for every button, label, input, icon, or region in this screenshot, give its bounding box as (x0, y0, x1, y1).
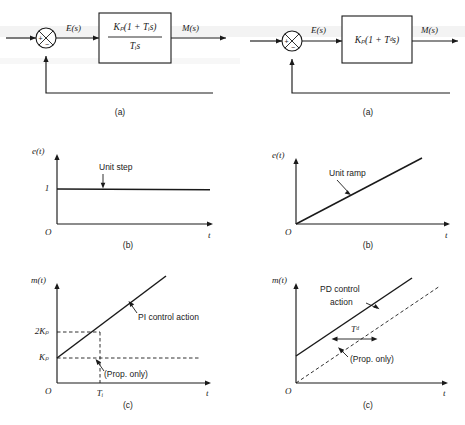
pd-input-arrowhead (276, 38, 282, 43)
pi-action-ylabel: m(t) (31, 275, 46, 285)
pi-action-origin: O (45, 386, 52, 396)
figure-canvas: + − E(s) Kₚ(1 + Tᵢs) Tᵢs M(s) (a) 1 Unit… (0, 0, 465, 425)
pd-action-annotation-line2: action (330, 297, 353, 307)
pd-summing-plus: + (284, 38, 288, 45)
pd-error-arrowhead (336, 38, 342, 43)
pd-action-td-label: Tᵈ (351, 324, 360, 334)
pd-action-caption: (c) (363, 400, 373, 410)
pd-action-td-arrowhead-right (372, 337, 378, 342)
pi-step-origin: O (45, 227, 52, 237)
pi-step-trace (57, 189, 210, 190)
pi-transfer-denominator: Tᵢs (130, 41, 141, 51)
pd-output-arrowhead (452, 38, 458, 43)
pi-summing-plus: + (38, 35, 42, 42)
pi-action-ytick-2kp: 2Kₚ (35, 326, 50, 336)
pi-step-ytick-1: 1 (45, 183, 50, 193)
pd-transfer: Kₚ(1 + Tᵈs) (354, 35, 400, 46)
pd-action-prop-annotation: (Prop. only) (350, 354, 394, 364)
pi-input-plot: 1 Unit step e(t) t O (b) (32, 146, 213, 250)
pi-output-plot: 2Kₚ Kₚ Tᵢ PI control action (Prop. only)… (31, 275, 211, 410)
pd-summing-minus: − (291, 44, 295, 51)
pd-action-td-arrowhead-left (332, 337, 338, 342)
pi-transfer-numerator: Kₚ(1 + Tᵢs) (112, 22, 156, 33)
pi-output-label: M(s) (181, 23, 199, 33)
pd-ramp-yaxis-arrow (293, 158, 298, 164)
pd-action-annotation-line1: PD control (320, 284, 360, 294)
pi-step-ylabel: e(t) (32, 146, 45, 156)
pi-summing-minus: − (45, 41, 49, 48)
figure-page: + − E(s) Kₚ(1 + Tᵢs) Tᵢs M(s) (a) 1 Unit… (0, 0, 465, 425)
pi-step-yaxis-arrow (54, 154, 59, 160)
pd-feedback-line (292, 59, 450, 93)
pi-action-annotation: PI control action (138, 312, 199, 322)
pd-ramp-xlabel: t (445, 230, 448, 240)
pd-block-caption: (a) (363, 107, 374, 117)
pi-action-ytick-kp: Kₚ (38, 352, 49, 362)
pi-step-caption: (b) (123, 240, 134, 250)
pd-action-ylabel: m(t) (272, 275, 287, 285)
pd-action-annotation-arrow (373, 304, 379, 309)
pd-action-prop-only-line (296, 286, 440, 383)
pd-ramp-annotation-arrow (345, 190, 351, 195)
pi-action-xtick-ti: Tᵢ (97, 388, 104, 398)
pd-ramp-xaxis-arrow (444, 221, 450, 226)
pi-controller-block (99, 13, 171, 63)
pi-action-prop-annotation: (Prop. only) (104, 369, 148, 379)
pd-action-yaxis-arrow (293, 283, 298, 289)
pd-feedback-arrowhead (289, 59, 294, 65)
pi-action-xlabel: t (206, 388, 209, 398)
pd-output-plot: Tᵈ PD control action (Prop. only) m(t) t… (272, 275, 448, 410)
pd-ramp-caption: (b) (363, 240, 374, 250)
pd-ramp-origin: O (285, 227, 292, 237)
pi-action-caption: (c) (123, 400, 133, 410)
pi-step-xlabel: t (208, 230, 211, 240)
pd-ramp-annotation: Unit ramp (329, 168, 366, 178)
pd-output-label: M(s) (420, 25, 438, 35)
pd-error-label: E(s) (310, 25, 326, 35)
pi-error-label: E(s) (65, 23, 81, 33)
pi-action-yaxis-arrow (54, 283, 59, 289)
pd-action-origin: O (285, 386, 292, 396)
pd-action-xlabel: t (443, 388, 446, 398)
pi-action-xaxis-arrow (205, 380, 211, 385)
pi-step-annotation: Unit step (99, 162, 133, 172)
pi-block-caption: (a) (115, 107, 126, 117)
pd-action-xaxis-arrow (442, 380, 448, 385)
pd-input-plot: Unit ramp e(t) t O (b) (272, 150, 450, 250)
pd-ramp-ylabel: e(t) (272, 150, 285, 160)
pi-step-xaxis-arrow (207, 221, 213, 226)
pi-step-annotation-arrow (101, 183, 106, 189)
